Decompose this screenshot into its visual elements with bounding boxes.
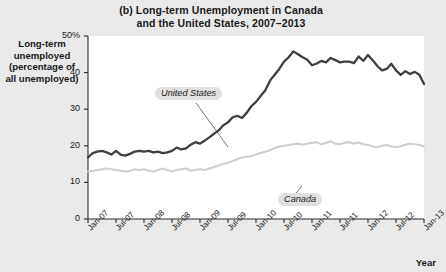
data-series	[88, 51, 424, 171]
annotation-leader-lines	[196, 103, 302, 199]
series-label-canada: Canada	[278, 193, 322, 206]
y-axis-ticks	[84, 36, 88, 219]
y-axis-tick-label: 40	[46, 67, 80, 77]
y-axis-tick-label: 20	[46, 140, 80, 150]
series-label-united-states: United States	[155, 87, 222, 100]
x-axis-label: Year	[416, 257, 436, 268]
y-axis-tick-label: 50%	[46, 30, 80, 40]
y-axis-tick-label: 0	[46, 213, 80, 223]
axes	[88, 36, 424, 219]
series-line-canada	[88, 141, 424, 171]
y-axis-tick-label: 30	[46, 103, 80, 113]
series-line-united-states	[88, 51, 424, 157]
y-axis-tick-label: 10	[46, 176, 80, 186]
